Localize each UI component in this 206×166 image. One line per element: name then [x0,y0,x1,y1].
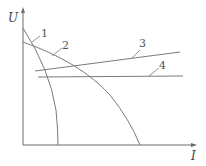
x-axis-label: I [190,149,196,163]
curve-1-label: 1 [41,27,48,40]
line-4-leader [149,68,159,76]
line-4-label: 4 [159,59,166,72]
y-axis-label: U [8,11,19,25]
curve-1-leader [32,36,40,42]
curve-2-leader [52,48,62,56]
curve-2: 2 [23,39,140,145]
y-axis-arrow-icon [21,7,25,13]
u-i-diagram: U I 1 2 3 4 [0,0,206,166]
curve-1: 1 [23,27,58,145]
axes: U I [8,7,197,163]
line-3-label: 3 [139,37,146,50]
x-axis-arrow-icon [191,143,197,147]
curve-2-label: 2 [62,39,69,52]
